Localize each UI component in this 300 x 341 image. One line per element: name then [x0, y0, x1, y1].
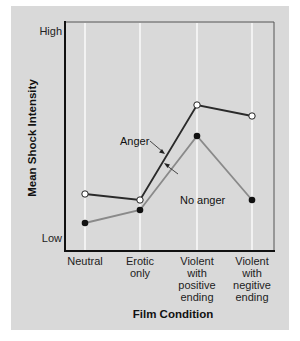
no-anger-point-erotic [137, 207, 144, 214]
x-label-violent-neg-line3: negitive [233, 279, 271, 291]
anger-point-erotic [137, 197, 143, 203]
y-axis-title: Mean Shock Intensity [26, 79, 38, 197]
plot-frame [64, 21, 275, 251]
no-anger-point-violent-positive [194, 133, 201, 140]
x-axis-title: Film Condition [133, 308, 213, 320]
callout-arrows [150, 141, 178, 174]
x-label-erotic-line2: only [130, 267, 151, 279]
x-label-violent-neg-line1: Violent [235, 255, 268, 267]
no-anger-point-violent-negative [249, 197, 256, 204]
no-anger-point-neutral [82, 220, 89, 227]
x-label-violent-pos-line3: positive [178, 279, 215, 291]
legend-label-anger: Anger [120, 135, 150, 147]
x-label-violent-pos-line2: with [186, 267, 207, 279]
x-label-violent-pos-line4: ending [180, 291, 213, 303]
x-label-erotic-line1: Erotic [126, 255, 155, 267]
x-label-neutral: Neutral [67, 255, 102, 267]
x-label-violent-pos-line1: Violent [180, 255, 213, 267]
y-tick-low: Low [42, 232, 62, 244]
x-label-violent-neg-line4: ending [235, 291, 268, 303]
x-category-labels: Neutral Erotic only Violent with positiv… [67, 255, 271, 303]
chart-svg: Anger No anger High Low Mean Shock Inten… [0, 0, 300, 341]
y-tick-high: High [39, 25, 62, 37]
anger-point-violent-positive [194, 102, 200, 108]
x-label-violent-neg-line2: with [241, 267, 262, 279]
gridlines [85, 23, 252, 250]
series-anger [82, 102, 255, 203]
anger-point-violent-negative [249, 113, 255, 119]
series-no-anger [82, 133, 256, 227]
anger-point-neutral [82, 191, 88, 197]
legend-label-no-anger: No anger [180, 194, 226, 206]
